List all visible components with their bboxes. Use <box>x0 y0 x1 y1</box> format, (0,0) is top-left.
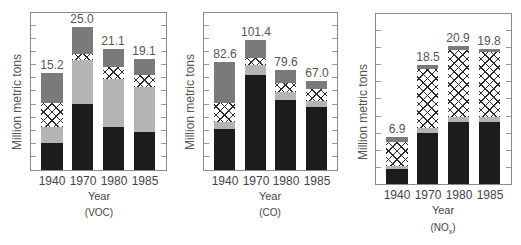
segment-hatched <box>386 142 408 166</box>
x-tick-label: 1985 <box>474 188 506 202</box>
y-tick <box>204 104 209 105</box>
segment-light-gray <box>214 122 235 129</box>
bar-1980 <box>448 46 469 184</box>
y-tick <box>31 143 36 144</box>
y-tick <box>161 77 166 78</box>
y-tick <box>376 167 381 168</box>
y-tick <box>332 117 337 118</box>
y-tick <box>31 77 36 78</box>
y-tick <box>31 156 36 157</box>
y-tick <box>161 117 166 118</box>
y-tick <box>506 81 511 82</box>
y-tick <box>332 130 337 131</box>
segment-black <box>275 100 296 170</box>
y-tick <box>204 77 209 78</box>
segment-dark-gray <box>275 70 296 83</box>
x-tick-label: 1980 <box>98 174 130 188</box>
segment-light-gray <box>134 87 155 132</box>
total-label: 19.8 <box>469 34 509 48</box>
bar-1970 <box>245 40 266 170</box>
y-tick <box>161 38 166 39</box>
segment-hatched <box>448 50 469 117</box>
segment-hatched <box>245 58 266 65</box>
y-tick <box>161 64 166 65</box>
segment-dark-gray <box>134 59 155 75</box>
segment-dark-gray <box>72 27 93 54</box>
bar-1940 <box>41 73 63 170</box>
total-label: 19.1 <box>124 44 164 58</box>
y-tick <box>31 104 36 105</box>
segment-black <box>386 169 408 184</box>
y-tick <box>31 38 36 39</box>
y-tick <box>31 90 36 91</box>
segment-dark-gray <box>41 73 63 103</box>
segment-black <box>134 132 155 170</box>
y-tick <box>376 150 381 151</box>
x-tick-label: 1970 <box>240 174 272 188</box>
segment-light-gray <box>275 92 296 100</box>
y-tick <box>506 30 511 31</box>
segment-hatched <box>417 69 438 128</box>
segment-black <box>41 143 63 170</box>
y-tick <box>31 130 36 131</box>
segment-black <box>306 107 327 170</box>
y-tick <box>332 25 337 26</box>
x-tick-label: 1980 <box>270 174 302 188</box>
y-tick <box>204 117 209 118</box>
chart-subtitle: (VOC) <box>69 207 129 218</box>
x-tick-label: 1985 <box>301 174 333 188</box>
y-axis-title: Million metric tons <box>356 64 370 160</box>
y-axis-title: Million metric tons <box>183 54 197 150</box>
total-label: 18.5 <box>408 50 448 64</box>
bar-1970 <box>417 65 438 184</box>
bar-1985 <box>479 49 500 184</box>
bar-1940 <box>386 137 408 184</box>
y-tick <box>204 25 209 26</box>
segment-hatched <box>103 67 124 79</box>
bar-1985 <box>134 59 155 170</box>
y-tick <box>376 81 381 82</box>
y-tick <box>332 38 337 39</box>
y-tick <box>332 64 337 65</box>
y-tick <box>376 30 381 31</box>
y-tick <box>31 25 36 26</box>
y-tick <box>332 104 337 105</box>
segment-black <box>103 127 124 170</box>
y-tick <box>204 38 209 39</box>
segment-dark-gray <box>306 81 327 89</box>
segment-dark-gray <box>245 40 266 58</box>
y-tick <box>31 117 36 118</box>
bar-1980 <box>103 49 124 170</box>
y-tick <box>204 90 209 91</box>
total-label: 82.6 <box>205 47 245 61</box>
bar-1985 <box>306 81 327 170</box>
y-tick <box>332 143 337 144</box>
bar-1940 <box>214 62 235 170</box>
x-tick-label: 1970 <box>67 174 99 188</box>
segment-hatched <box>479 52 500 117</box>
subtitle-end: ) <box>452 222 455 233</box>
bar-1970 <box>72 27 93 170</box>
y-tick <box>161 156 166 157</box>
y-tick <box>31 51 36 52</box>
y-tick <box>332 51 337 52</box>
chart-subtitle: (CO) <box>240 207 300 218</box>
segment-dark-gray <box>103 49 124 67</box>
segment-black <box>448 122 469 184</box>
x-axis-title: Year <box>413 204 473 216</box>
y-axis-title: Million metric tons <box>10 54 24 150</box>
segment-black <box>214 129 235 170</box>
segment-light-gray <box>41 127 63 143</box>
y-tick <box>204 130 209 131</box>
segment-hatched <box>306 89 327 101</box>
subtitle-main: (NO <box>430 222 448 233</box>
x-tick-label: 1970 <box>412 188 444 202</box>
y-tick <box>161 25 166 26</box>
y-tick <box>506 116 511 117</box>
y-tick <box>161 104 166 105</box>
segment-hatched <box>134 75 155 87</box>
total-label: 15.2 <box>32 58 72 72</box>
segment-light-gray <box>245 65 266 75</box>
x-tick-label: 1940 <box>381 188 413 202</box>
bar-1980 <box>275 70 296 170</box>
